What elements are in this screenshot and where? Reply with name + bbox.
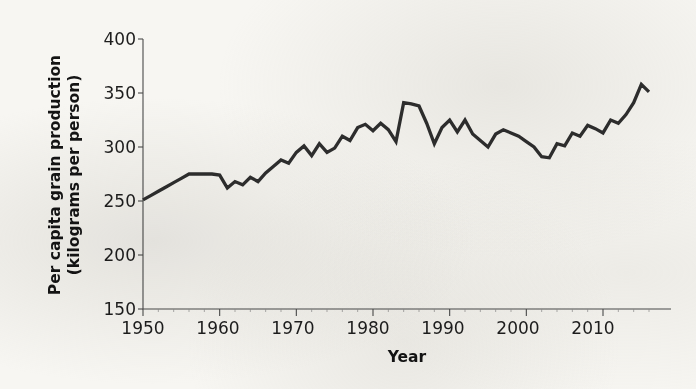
- y-tick-label-200: 200: [104, 245, 136, 265]
- y-tick-label-400: 400: [104, 29, 136, 49]
- x-axis-title: Year: [387, 348, 427, 366]
- x-tick-label-1980: 1980: [346, 318, 389, 338]
- y-axis-title: Per capita grain production (kilograms p…: [46, 55, 83, 295]
- chart-figure: Per capita grain production (kilograms p…: [0, 0, 696, 389]
- x-tick-label-1990: 1990: [421, 318, 464, 338]
- y-axis-title-line1: Per capita grain production: [46, 55, 64, 295]
- y-tick-label-350: 350: [104, 83, 136, 103]
- x-tick-label-2000: 2000: [496, 318, 539, 338]
- x-tick-label-1950: 1950: [121, 318, 164, 338]
- x-tick-label-1970: 1970: [271, 318, 314, 338]
- x-tick-label-1960: 1960: [196, 318, 239, 338]
- y-tick-label-300: 300: [104, 137, 136, 157]
- y-axis-title-line2: (kilograms per person): [65, 75, 83, 276]
- y-tick-label-250: 250: [104, 191, 136, 211]
- x-tick-label-2010: 2010: [571, 318, 614, 338]
- y-tick-label-150: 150: [104, 299, 136, 319]
- line-chart-svg: Per capita grain production (kilograms p…: [0, 0, 696, 389]
